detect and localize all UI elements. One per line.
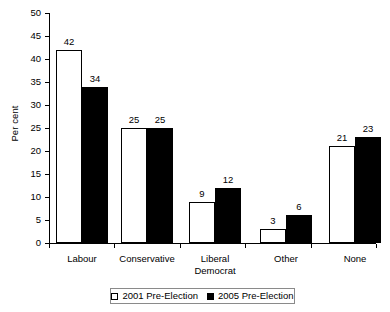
- bar: [286, 215, 312, 243]
- bar-value-label: 12: [215, 175, 241, 185]
- y-tick-mark: [45, 36, 49, 37]
- bar-value-label: 25: [121, 115, 147, 125]
- filled-square-icon: [207, 293, 214, 300]
- bar: [189, 202, 215, 243]
- y-tick-label: 20: [17, 146, 41, 156]
- y-tick-label: 0: [17, 238, 41, 248]
- open-square-icon: [111, 293, 118, 300]
- bar-value-label: 9: [189, 189, 215, 199]
- y-tick-label: 35: [17, 77, 41, 87]
- y-tick-label: 30: [17, 100, 41, 110]
- y-tick-mark: [45, 220, 49, 221]
- y-tick-label: 15: [17, 169, 41, 179]
- x-axis-line: [49, 243, 376, 244]
- bar: [260, 229, 286, 243]
- bar-chart: Per cent 05101520253035404550 4234252591…: [0, 0, 390, 312]
- legend-item-2005: 2005 Pre-Election: [207, 291, 294, 301]
- y-tick-mark: [45, 128, 49, 129]
- y-tick-label: 50: [17, 8, 41, 18]
- bar-value-label: 42: [56, 37, 82, 47]
- y-tick-label: 45: [17, 31, 41, 41]
- legend-label-2005: 2005 Pre-Election: [218, 291, 294, 301]
- x-tick-mark: [245, 244, 246, 248]
- legend-label-2001: 2001 Pre-Election: [122, 291, 198, 301]
- y-tick-label: 25: [17, 123, 41, 133]
- y-tick-label: 40: [17, 54, 41, 64]
- y-tick-mark: [45, 105, 49, 106]
- bar: [215, 188, 241, 243]
- bar-value-label: 23: [355, 124, 381, 134]
- x-category-label: None: [307, 253, 390, 265]
- bar: [329, 146, 355, 243]
- bar-value-label: 25: [147, 115, 173, 125]
- y-axis-line: [49, 13, 50, 244]
- bar: [147, 128, 173, 243]
- x-tick-mark: [180, 244, 181, 248]
- legend-item-2001: 2001 Pre-Election: [111, 291, 198, 301]
- bar: [82, 87, 108, 243]
- bar-value-label: 21: [329, 133, 355, 143]
- y-tick-mark: [45, 82, 49, 83]
- x-tick-mark: [311, 244, 312, 248]
- y-tick-label: 5: [17, 215, 41, 225]
- y-tick-mark: [45, 197, 49, 198]
- y-tick-mark: [45, 174, 49, 175]
- bar: [355, 137, 381, 243]
- bar-value-label: 3: [260, 216, 286, 226]
- x-tick-mark: [49, 244, 50, 248]
- x-tick-mark: [376, 244, 377, 248]
- y-tick-mark: [45, 59, 49, 60]
- bar-value-label: 6: [286, 202, 312, 212]
- y-tick-mark: [45, 151, 49, 152]
- y-tick-mark: [45, 13, 49, 14]
- y-tick-label: 10: [17, 192, 41, 202]
- bar: [56, 50, 82, 243]
- bar: [121, 128, 147, 243]
- bar-value-label: 34: [82, 74, 108, 84]
- x-tick-mark: [114, 244, 115, 248]
- legend: 2001 Pre-Election 2005 Pre-Election: [110, 288, 295, 304]
